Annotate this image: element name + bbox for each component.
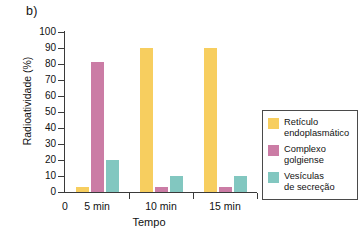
bar-group xyxy=(193,32,257,192)
legend-item: Vesículasde secreção xyxy=(268,171,352,193)
x-axis-tick-label: 15 min xyxy=(200,200,250,212)
bar-groups xyxy=(65,32,257,192)
y-axis-tick-mark xyxy=(58,144,64,145)
legend-label-line: endoplasmático xyxy=(284,128,349,139)
legend-label-line: Retículo xyxy=(284,117,349,128)
legend-label-line: Complexo xyxy=(284,144,326,155)
bar xyxy=(155,187,168,192)
y-axis-tick-label: 10 xyxy=(30,171,56,181)
legend-label: Complexogolgiense xyxy=(284,144,326,166)
y-axis-tick-mark xyxy=(58,112,64,113)
y-axis-tick-mark xyxy=(58,32,64,33)
bar xyxy=(76,187,89,192)
y-axis-tick-label: 40 xyxy=(30,123,56,133)
x-axis-tick-label: 5 min xyxy=(72,200,122,212)
legend-label: Vesículasde secreção xyxy=(284,171,335,193)
legend-swatch-icon xyxy=(268,118,279,129)
x-axis-line xyxy=(64,192,257,193)
y-axis-tick-mark xyxy=(58,48,64,49)
bar xyxy=(106,160,119,192)
bar xyxy=(204,48,217,192)
x-axis-title: Tempo xyxy=(40,216,258,228)
x-axis-tick-mark xyxy=(193,193,194,199)
y-axis-tick-label: 50 xyxy=(30,107,56,117)
bar xyxy=(140,48,153,192)
y-axis-tick-mark xyxy=(58,176,64,177)
x-axis-tick-mark xyxy=(129,193,130,199)
y-axis-tick-mark xyxy=(58,96,64,97)
legend-label-line: Vesículas xyxy=(284,171,335,182)
legend-label: Retículoendoplasmático xyxy=(284,117,349,139)
legend-swatch-icon xyxy=(268,172,279,183)
bar xyxy=(234,176,247,192)
y-axis-tick-mark xyxy=(58,128,64,129)
y-axis-tick-label: 70 xyxy=(30,75,56,85)
y-axis-tick-mark xyxy=(58,64,64,65)
bar-group xyxy=(129,32,193,192)
bar xyxy=(170,176,183,192)
bar xyxy=(219,187,232,192)
y-axis-tick-label: 30 xyxy=(30,139,56,149)
legend-label-line: golgiense xyxy=(284,155,326,166)
bar-chart-figure: b) Radioatividade (%) 010203040506070809… xyxy=(0,0,364,239)
y-axis-tick-mark xyxy=(58,192,64,193)
y-axis-tick-label: 60 xyxy=(30,91,56,101)
x-axis-tick-mark xyxy=(257,193,258,199)
bar-group xyxy=(65,32,129,192)
y-axis-tick-mark xyxy=(58,80,64,81)
bar xyxy=(91,62,104,192)
legend-swatch-icon xyxy=(268,145,279,156)
legend-item: Retículoendoplasmático xyxy=(268,117,352,139)
y-axis-tick-mark xyxy=(58,160,64,161)
y-axis-tick-label: 20 xyxy=(30,155,56,165)
legend-item: Complexogolgiense xyxy=(268,144,352,166)
y-axis-tick-label: 0 xyxy=(30,187,56,197)
y-axis-tick-label: 90 xyxy=(30,43,56,53)
x-axis-tick-label: 10 min xyxy=(136,200,186,212)
y-axis-tick-label: 100 xyxy=(30,27,56,37)
legend-label-line: de secreção xyxy=(284,182,335,193)
y-axis-tick-label: 80 xyxy=(30,59,56,69)
chart-legend: RetículoendoplasmáticoComplexogolgienseV… xyxy=(262,110,358,200)
